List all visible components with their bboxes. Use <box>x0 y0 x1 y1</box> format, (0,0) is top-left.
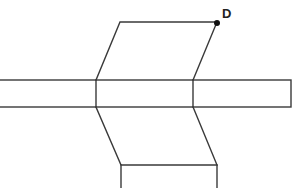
top-parallelogram <box>96 22 217 80</box>
point-d-marker <box>214 20 220 26</box>
horizontal-band <box>0 80 291 107</box>
bottom-parallelogram <box>96 107 217 165</box>
diagram-canvas: D <box>0 0 298 188</box>
point-d-label: D <box>222 6 231 21</box>
